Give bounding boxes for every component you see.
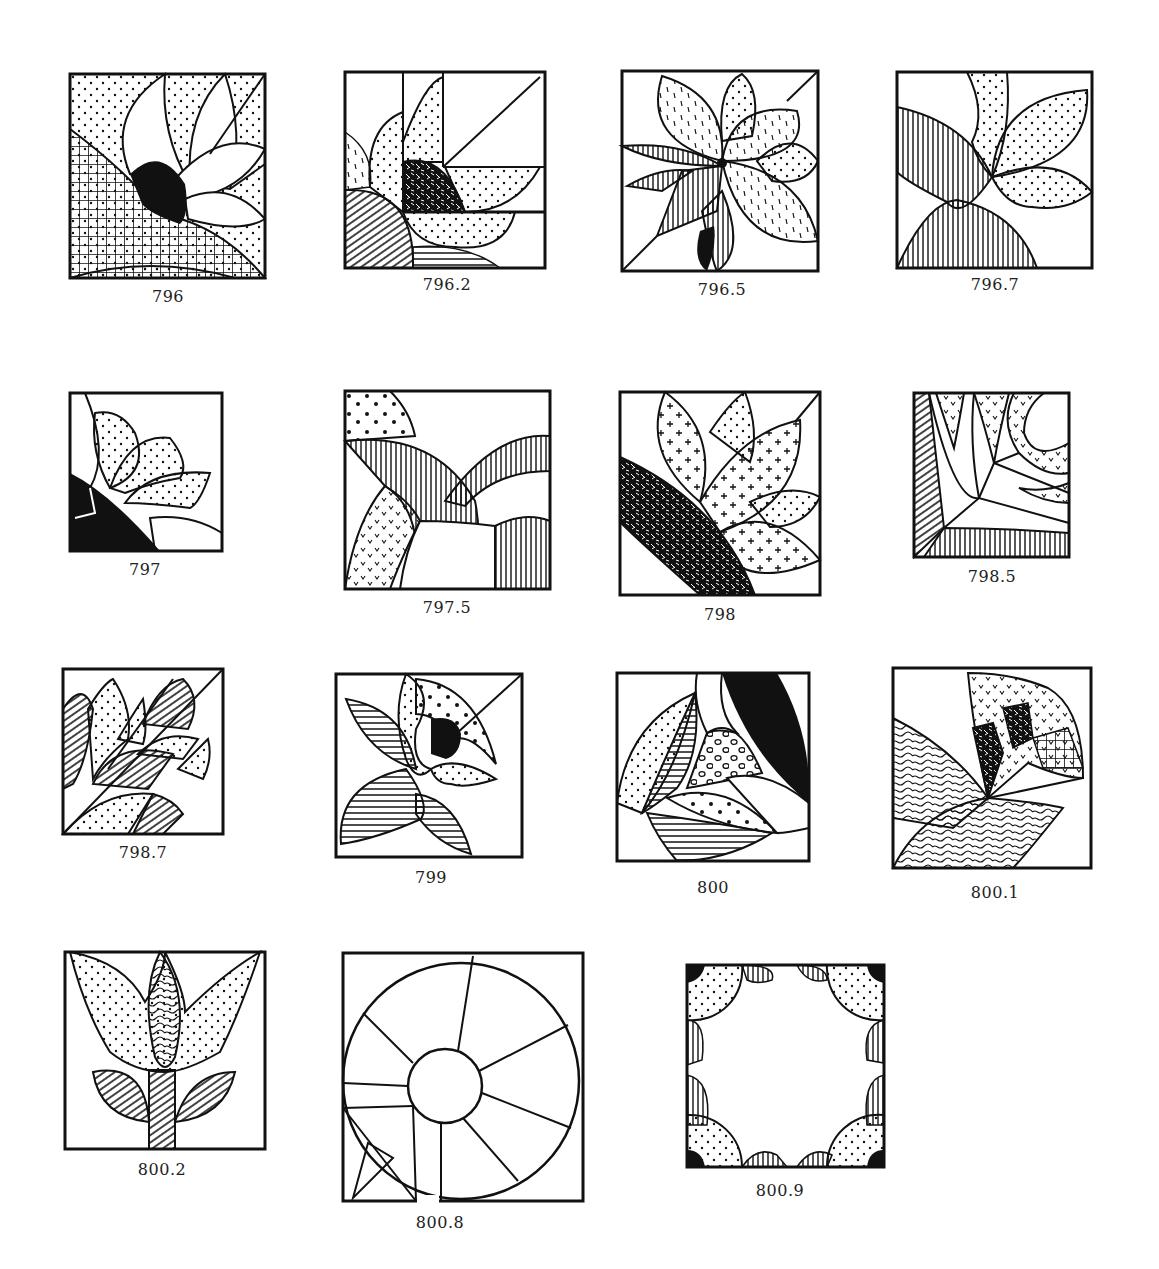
- wavy-fan-icon: [893, 668, 1091, 868]
- block-label: 796.5: [698, 280, 746, 299]
- quarter-fan-grid-icon: [345, 72, 545, 268]
- overlapping-arcs-icon: [345, 391, 550, 589]
- quilt-block-800-8: [343, 953, 583, 1201]
- spoked-wheel-icon: [343, 953, 583, 1201]
- quilt-block-797-5: [345, 391, 550, 589]
- quilt-block-800-2: [65, 952, 265, 1149]
- cross-petal-flower-icon: [620, 392, 820, 595]
- eight-petal-flower-icon: [622, 71, 818, 271]
- block-label: 796: [152, 287, 184, 306]
- block-label: 796.7: [971, 275, 1019, 294]
- block-label: 797: [129, 560, 161, 579]
- quilt-block-798-7: [63, 669, 223, 834]
- curved-star-icon: [914, 393, 1069, 557]
- block-label: 796.2: [423, 275, 471, 294]
- block-label: 800.2: [138, 1160, 186, 1179]
- quilt-block-800-9: [687, 965, 884, 1167]
- quilt-block-796: [70, 74, 265, 278]
- block-label: 798.7: [119, 843, 167, 862]
- curved-petals-icon: [617, 673, 809, 861]
- tulip-black-center-icon: [336, 674, 522, 857]
- block-label: 800.1: [971, 883, 1019, 902]
- quilt-block-796-7: [897, 72, 1092, 268]
- tulip-stem-icon: [65, 952, 265, 1149]
- quilt-block-796-5: [622, 71, 818, 271]
- quilt-block-797: [70, 393, 222, 551]
- quilt-block-798-5: [914, 393, 1069, 557]
- quilt-block-798: [620, 392, 820, 595]
- fan-petals-icon: [70, 393, 222, 551]
- diagonal-fan-strips-icon: [63, 669, 223, 834]
- block-label: 797.5: [423, 598, 471, 617]
- tulip-leaves-icon: [897, 72, 1092, 268]
- quilt-block-800: [617, 673, 809, 861]
- block-label: 800.8: [416, 1213, 464, 1232]
- block-label: 800: [697, 878, 729, 897]
- block-label: 799: [415, 868, 447, 887]
- block-label: 798.5: [968, 567, 1016, 586]
- quilt-block-800-1: [893, 668, 1091, 868]
- corner-circles-icon: [687, 965, 884, 1167]
- block-label: 800.9: [756, 1181, 804, 1200]
- quilt-block-796-2: [345, 72, 545, 268]
- block-label: 798: [704, 605, 736, 624]
- quilt-block-799: [336, 674, 522, 857]
- sunflower-quarter-icon: [70, 74, 265, 278]
